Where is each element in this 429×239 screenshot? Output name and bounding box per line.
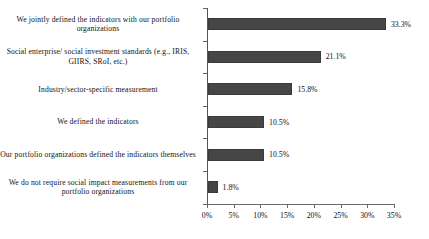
value-tick-label: 25% [333, 211, 347, 220]
category-label: Industry/sector-specific measurement [0, 85, 196, 95]
category-label: We do not require social impact measurem… [0, 178, 196, 197]
value-tick-label: 10% [253, 211, 267, 220]
value-tick [260, 204, 261, 208]
bar-group: 10.5% [208, 116, 289, 128]
value-tick [314, 204, 315, 208]
bar [208, 51, 321, 63]
value-tick [287, 204, 288, 208]
value-tick [341, 204, 342, 208]
category-label: Our portfolio organizations defined the … [0, 150, 196, 160]
bar-value-label: 21.1% [326, 52, 346, 61]
plot-area: We jointly defined the indicators with o… [0, 0, 429, 211]
bar-value-label: 10.5% [269, 150, 289, 159]
value-tick-label: 15% [280, 211, 294, 220]
bar-row: We do not require social impact measurem… [0, 171, 429, 204]
value-tick-label: 35% [387, 211, 401, 220]
bar-row: We defined the indicators10.5% [0, 106, 429, 139]
category-label: Social enterprise/ social investment sta… [0, 47, 196, 66]
value-tick-label: 0% [202, 211, 212, 220]
bar [208, 149, 264, 161]
bar-value-label: 33.3% [391, 20, 411, 29]
value-tick-label: 30% [360, 211, 374, 220]
bar-value-label: 15.8% [297, 85, 317, 94]
bar [208, 83, 292, 95]
bar-group: 33.3% [208, 18, 411, 30]
value-tick-label: 5% [229, 211, 239, 220]
value-tick [234, 204, 235, 208]
bar-group: 15.8% [208, 83, 318, 95]
bar-row: Social enterprise/ social investment sta… [0, 41, 429, 74]
value-tick [207, 204, 208, 208]
category-label: We defined the indicators [0, 117, 196, 127]
bar-row: Industry/sector-specific measurement15.8… [0, 73, 429, 106]
bar-group: 10.5% [208, 149, 289, 161]
bar [208, 116, 264, 128]
bar-value-label: 1.8% [223, 183, 239, 192]
category-label: We jointly defined the indicators with o… [0, 15, 196, 34]
bar-value-label: 10.5% [269, 118, 289, 127]
value-tick [394, 204, 395, 208]
bar-group: 1.8% [208, 181, 239, 193]
bar [208, 181, 218, 193]
bar-row: Our portfolio organizations defined the … [0, 138, 429, 171]
bar-group: 21.1% [208, 51, 346, 63]
value-tick-label: 20% [307, 211, 321, 220]
bar [208, 18, 386, 30]
horizontal-bar-chart: We jointly defined the indicators with o… [0, 0, 429, 239]
value-tick [367, 204, 368, 208]
bar-row: We jointly defined the indicators with o… [0, 8, 429, 41]
